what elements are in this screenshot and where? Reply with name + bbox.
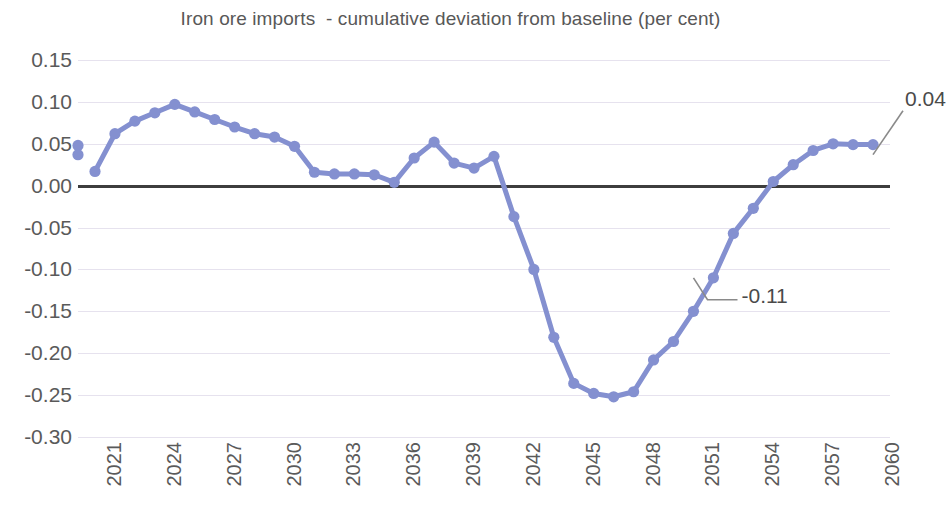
y-tick-label: -0.25 — [4, 383, 72, 407]
chart-title: Iron ore imports - cumulative deviation … — [0, 8, 901, 30]
x-tick-label: 2024 — [163, 442, 186, 487]
x-tick-label: 2048 — [642, 442, 665, 487]
y-axis: 0.150.100.050.00-0.05-0.10-0.15-0.20-0.2… — [0, 60, 72, 437]
x-axis: 2021202420272030203320362039204220452048… — [78, 440, 890, 516]
data-point-marker — [828, 138, 839, 149]
data-point-marker — [249, 128, 260, 139]
data-point-marker — [109, 128, 120, 139]
y-tick-label: -0.05 — [4, 216, 72, 240]
data-point-marker — [289, 141, 300, 152]
data-point-marker — [169, 99, 180, 110]
y-tick-label: -0.10 — [4, 257, 72, 281]
data-point-marker — [349, 168, 360, 179]
data-point-marker — [209, 114, 220, 125]
x-tick-label: 2051 — [701, 442, 724, 487]
x-tick-label: 2042 — [522, 442, 545, 487]
annotation-label: -0.11 — [741, 284, 787, 308]
data-point-marker — [528, 264, 539, 275]
data-point-marker — [369, 169, 380, 180]
annotation-label: 0.04 — [905, 87, 946, 111]
data-point-marker — [548, 332, 559, 343]
data-point-marker — [129, 116, 140, 127]
data-point-marker — [448, 157, 459, 168]
x-tick-label: 2021 — [103, 442, 126, 487]
data-point-marker — [229, 121, 240, 132]
data-point-marker — [329, 168, 340, 179]
data-point-marker — [728, 228, 739, 239]
y-tick-label: -0.30 — [4, 425, 72, 449]
data-point-marker — [269, 131, 280, 142]
y-tick-label: 0.15 — [4, 48, 72, 72]
y-tick-label: 0.10 — [4, 90, 72, 114]
data-point-marker — [389, 177, 400, 188]
data-point-marker — [568, 378, 579, 389]
y-tick-label: 0.05 — [4, 132, 72, 156]
y-tick-label: 0.00 — [4, 174, 72, 198]
x-tick-label: 2057 — [821, 442, 844, 487]
data-point-marker — [788, 159, 799, 170]
x-tick-label: 2033 — [342, 442, 365, 487]
series-iron-ore-imports — [78, 60, 890, 437]
data-point-marker — [688, 306, 699, 317]
data-point-marker — [89, 166, 100, 177]
data-point-marker — [468, 162, 479, 173]
data-point-marker — [768, 176, 779, 187]
series-line — [95, 104, 873, 396]
data-point-marker — [309, 167, 320, 178]
data-point-marker — [668, 336, 679, 347]
x-tick-label: 2060 — [881, 442, 904, 487]
data-point-marker — [648, 354, 659, 365]
data-point-marker — [708, 272, 719, 283]
data-point-marker — [808, 145, 819, 156]
y-tick-label: -0.15 — [4, 299, 72, 323]
data-point-marker — [149, 107, 160, 118]
x-tick-label: 2030 — [283, 442, 306, 487]
data-point-marker — [748, 203, 759, 214]
plot-area: 0.04-0.11 — [78, 60, 890, 437]
data-point-marker — [588, 388, 599, 399]
x-tick-label: 2054 — [761, 442, 784, 487]
data-point-marker — [488, 151, 499, 162]
data-point-marker — [189, 106, 200, 117]
x-tick-label: 2036 — [402, 442, 425, 487]
y-tick-label: -0.20 — [4, 341, 72, 365]
data-point-marker — [429, 137, 440, 148]
gridline — [78, 437, 890, 438]
data-point-marker — [608, 391, 619, 402]
data-point-marker — [409, 152, 420, 163]
data-point-marker — [628, 386, 639, 397]
x-tick-label: 2039 — [462, 442, 485, 487]
x-tick-label: 2045 — [582, 442, 605, 487]
data-point-marker — [508, 211, 519, 222]
annotation-leader-line — [873, 111, 903, 155]
data-point-marker — [847, 139, 858, 150]
data-point-marker — [72, 149, 83, 160]
x-tick-label: 2027 — [223, 442, 246, 487]
